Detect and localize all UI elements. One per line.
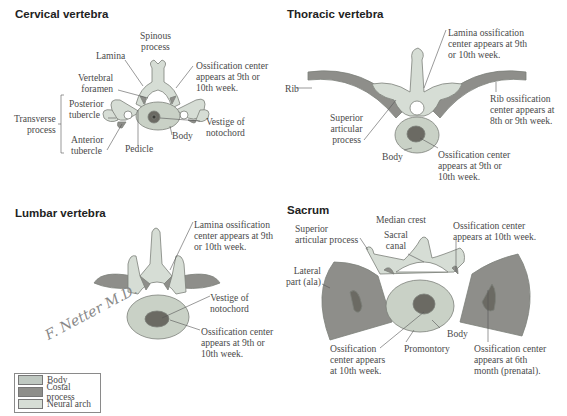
label-transverse-process: Transverse process [14,113,56,135]
label-lumbar-lamina-ossification: Lamina ossification center appears at 9t… [194,219,273,252]
label-rib: Rib [285,83,299,94]
label-thoracic-body: Body [382,151,403,162]
label-vestige-notochord-cervical: Vestige of notochord [206,116,245,138]
thoracic-title: Thoracic vertebra [287,8,384,20]
label-promontory: Promontory [404,343,450,354]
label-superior-articular-process-thoracic: Superior articular process [330,112,363,145]
legend-item-neural-arch: Neural arch [18,398,100,410]
label-pedicle: Pedicle [125,143,153,154]
label-anterior-tubercle: Anterior tubercle [71,134,104,156]
legend: Body Costal process Neural arch [14,373,101,413]
legend-item-costal-process: Costal process [18,386,100,398]
cervical-vertebra-drawing [103,60,209,130]
swatch-body [18,375,43,385]
label-lumbar-ossification: Ossification center appears at 9th or 10… [201,326,273,359]
label-superior-articular-process-sacrum: Superior articular process [295,223,358,245]
label-spinous-process: Spinous process [140,30,171,52]
label-lateral-part-ala: Lateral part (ala) [286,265,321,287]
sacrum-title: Sacrum [287,204,329,216]
label-posterior-tubercle: Posterior tubercle [69,98,104,120]
sacrum-drawing [322,237,530,340]
label-vestige-notochord-lumbar: Vestige of notochord [210,292,249,314]
label-ossification-10th-week-body: Ossification center appears at 10th week… [330,343,385,376]
label-lamina: Lamina [96,50,125,61]
lumbar-title: Lumbar vertebra [15,207,106,219]
swatch-neural-arch [18,399,43,409]
swatch-costal-process [18,387,43,397]
label-ossification-10th-week-arch: Ossification center appears at 10th week… [453,220,536,242]
label-sacrum-body: Body [447,328,468,339]
label-vertebral-foramen: Vertebral foramen [78,72,113,94]
cervical-title: Cervical vertebra [15,8,108,20]
label-rib-ossification: Rib ossification center appears at 8th o… [490,93,554,126]
legend-label: Neural arch [47,399,91,409]
label-ossification-6th-month: Ossification center appears at 6th month… [474,343,546,376]
label-cervical-body: Body [172,130,193,141]
label-thoracic-lamina-ossification: Lamina ossification center appears at 9t… [448,27,527,60]
label-sacral-canal: Sacral canal [384,229,408,251]
label-cervical-ossification: Ossification center appears at 9th or 10… [196,60,268,93]
label-median-crest: Median crest [376,214,426,225]
label-thoracic-ossification: Ossification center appears at 9th or 10… [438,149,510,182]
